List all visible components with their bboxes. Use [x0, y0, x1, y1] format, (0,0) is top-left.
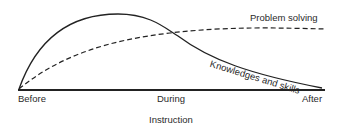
x-tick-before: Before — [18, 93, 46, 104]
x-tick-after: After — [302, 93, 322, 104]
x-axis-title: Instruction — [149, 114, 193, 125]
x-tick-during: During — [157, 93, 185, 104]
problem-solving-label: Problem solving — [250, 12, 318, 23]
